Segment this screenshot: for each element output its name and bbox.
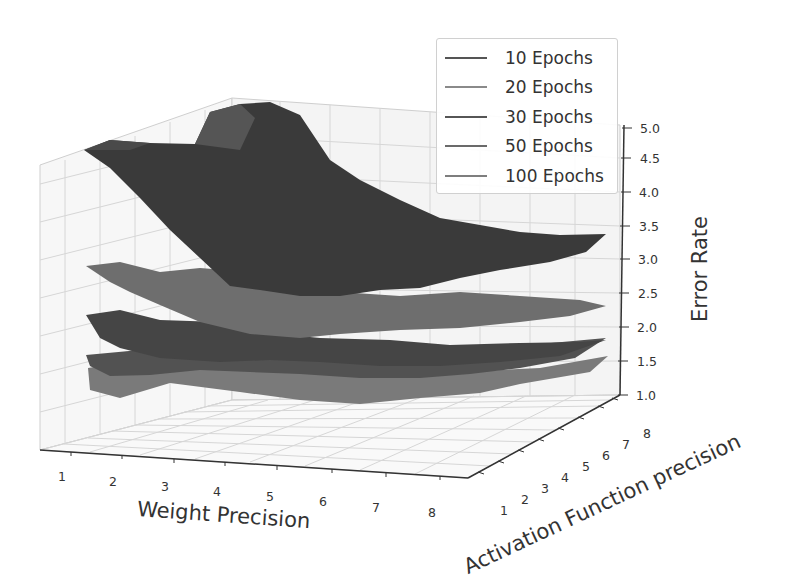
z-tick-label: 3.0 bbox=[638, 252, 658, 267]
y-tick-label: 4 bbox=[561, 470, 569, 485]
legend-line-icon bbox=[445, 57, 487, 59]
z-tick-label: 3.5 bbox=[639, 219, 659, 234]
y-tick-label: 6 bbox=[602, 448, 610, 463]
z-tick-label: 4.0 bbox=[639, 185, 659, 200]
z-tick-label: 2.0 bbox=[637, 320, 657, 335]
y-tick-label: 8 bbox=[643, 426, 651, 441]
z-tick-label: 5.0 bbox=[640, 121, 660, 136]
x-tick-label: 4 bbox=[213, 484, 221, 499]
z-axis-label: Error Rate bbox=[688, 216, 712, 322]
legend-line-icon bbox=[445, 145, 487, 147]
legend-label: 10 Epochs bbox=[505, 48, 593, 68]
legend-item-30-epochs: 30 Epochs bbox=[445, 102, 609, 132]
y-tick-label: 5 bbox=[582, 459, 590, 474]
x-tick-label: 5 bbox=[266, 489, 274, 504]
z-tick-label: 4.5 bbox=[640, 151, 660, 166]
legend-label: 30 Epochs bbox=[505, 107, 593, 127]
legend-label: 50 Epochs bbox=[505, 136, 593, 156]
y-tick-label: 3 bbox=[541, 481, 549, 496]
y-tick-label: 7 bbox=[622, 437, 630, 452]
x-tick-label: 8 bbox=[428, 505, 436, 520]
surface-plot-3d bbox=[0, 0, 794, 585]
legend-label: 20 Epochs bbox=[505, 77, 593, 97]
x-tick-label: 7 bbox=[372, 500, 380, 515]
legend-item-10-epochs: 10 Epochs bbox=[445, 43, 609, 73]
z-tick-label: 1.0 bbox=[636, 388, 656, 403]
legend-item-50-epochs: 50 Epochs bbox=[445, 132, 609, 162]
x-tick-label: 1 bbox=[58, 469, 66, 484]
x-tick-label: 2 bbox=[109, 474, 117, 489]
legend-line-icon bbox=[445, 175, 487, 177]
x-tick-label: 6 bbox=[319, 494, 327, 509]
z-tick-label: 2.5 bbox=[638, 286, 658, 301]
legend-line-icon bbox=[445, 116, 487, 118]
x-tick-label: 3 bbox=[161, 479, 169, 494]
y-tick-label: 2 bbox=[521, 492, 529, 507]
legend-item-100-epochs: 100 Epochs bbox=[445, 161, 609, 191]
y-tick-label: 1 bbox=[500, 503, 508, 518]
z-tick-label: 1.5 bbox=[637, 354, 657, 369]
legend-item-20-epochs: 20 Epochs bbox=[445, 73, 609, 103]
legend: 10 Epochs 20 Epochs 30 Epochs 50 Epochs … bbox=[436, 38, 618, 194]
legend-line-icon bbox=[445, 86, 487, 88]
legend-label: 100 Epochs bbox=[505, 166, 604, 186]
